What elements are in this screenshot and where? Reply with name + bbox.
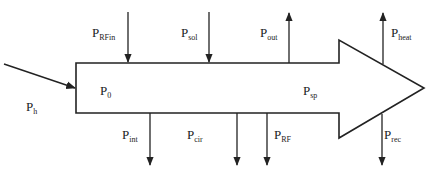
label-p-h: Ph	[26, 100, 37, 116]
label-p-rfin: PRFin	[92, 26, 115, 42]
label-p-sp: Psp	[303, 84, 317, 100]
label-p-rf: PRF	[274, 128, 291, 144]
label-p-out: Pout	[260, 26, 277, 42]
label-p-cir: Pcir	[187, 128, 203, 144]
label-p-sol: Psol	[181, 26, 198, 42]
label-p-0: P0	[100, 84, 111, 100]
label-p-int: Pint	[122, 128, 138, 144]
label-p-heat: Pheat	[391, 26, 412, 42]
power-flow-diagram	[0, 0, 444, 178]
input-arrow-p-h	[4, 64, 75, 88]
label-p-rec: Prec	[384, 128, 401, 144]
